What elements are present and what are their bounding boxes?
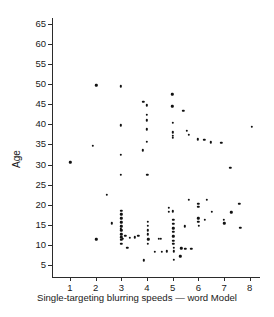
y-axis-tick [48, 64, 52, 65]
data-point [173, 247, 175, 249]
data-point [173, 259, 175, 261]
data-point [69, 161, 71, 163]
data-point [165, 250, 167, 252]
data-point [239, 226, 241, 228]
data-point [124, 235, 126, 237]
data-point [137, 234, 139, 236]
data-point [238, 203, 240, 205]
data-point [171, 131, 173, 133]
data-point [120, 217, 122, 219]
data-point [120, 174, 122, 176]
y-axis-tick [48, 144, 52, 145]
data-point [120, 124, 122, 126]
data-point [186, 130, 188, 132]
data-point [171, 122, 173, 124]
y-axis-tick-label: 10 [35, 240, 46, 250]
data-point [197, 217, 199, 219]
y-axis-tick-label: 15 [35, 220, 46, 230]
x-axis-tick [224, 277, 225, 281]
data-point [110, 222, 112, 224]
data-point [211, 211, 213, 213]
data-point [146, 119, 148, 121]
y-axis-tick-label: 35 [35, 140, 46, 150]
data-point [179, 255, 181, 257]
x-axis-tick [96, 277, 97, 281]
data-point [229, 167, 231, 169]
data-point [171, 93, 173, 95]
data-point [146, 104, 148, 106]
data-point [172, 210, 174, 212]
y-axis-tick [48, 104, 52, 105]
data-point [168, 210, 170, 212]
data-point [197, 221, 199, 223]
data-point [120, 221, 122, 223]
data-point [91, 144, 93, 146]
x-axis-title: Single-targeting blurring speeds — word … [0, 292, 274, 303]
data-point [142, 101, 144, 103]
y-axis-tick-label: 65 [35, 19, 46, 29]
data-point [146, 224, 148, 226]
data-point [146, 221, 148, 223]
data-point [172, 227, 174, 229]
data-point [184, 225, 186, 227]
data-point [154, 250, 156, 252]
data-point [120, 213, 122, 215]
data-point [105, 193, 107, 195]
data-point [172, 223, 174, 225]
y-axis-tick-label: 40 [35, 120, 46, 130]
x-axis-line [52, 277, 260, 278]
data-point [220, 142, 222, 144]
data-point [197, 225, 199, 227]
data-point [203, 138, 205, 140]
data-point [172, 235, 174, 237]
data-point [172, 243, 174, 245]
plot-area: 510152025303540455055606512345678 [52, 18, 260, 277]
data-point [251, 126, 253, 128]
y-axis-title: Age [12, 150, 22, 168]
x-axis-tick [250, 277, 251, 281]
data-point [133, 236, 135, 238]
y-axis-tick-label: 5 [41, 260, 46, 270]
data-point [173, 250, 175, 252]
data-point [129, 236, 131, 238]
data-point [172, 231, 174, 233]
data-point [120, 242, 122, 244]
data-point [182, 110, 184, 112]
x-axis-tick [173, 277, 174, 281]
y-axis-tick-label: 30 [35, 160, 46, 170]
data-point [146, 173, 148, 175]
y-axis-tick [48, 44, 52, 45]
data-point [161, 250, 163, 252]
data-point [190, 248, 192, 250]
data-point [147, 242, 149, 244]
data-point [160, 238, 162, 240]
data-point [188, 198, 190, 200]
y-axis-tick-label: 25 [35, 180, 46, 190]
y-axis-tick [48, 84, 52, 85]
data-point [197, 202, 199, 204]
y-axis-tick [48, 225, 52, 226]
data-point [188, 134, 190, 136]
data-point [120, 153, 122, 155]
data-point [197, 138, 199, 140]
data-point [120, 210, 122, 212]
data-point [171, 137, 173, 139]
data-point [172, 219, 174, 221]
data-point [205, 199, 207, 201]
data-point [209, 141, 211, 143]
data-point [146, 141, 148, 143]
data-point [172, 240, 174, 242]
y-axis-tick [48, 265, 52, 266]
data-point [223, 219, 225, 221]
x-axis-tick [198, 277, 199, 281]
data-point [146, 233, 148, 235]
data-point [168, 207, 170, 209]
data-point [120, 85, 122, 87]
data-point [146, 128, 148, 130]
data-point [142, 259, 144, 261]
x-axis-tick [70, 277, 71, 281]
data-point [126, 247, 128, 249]
y-axis-tick-label: 50 [35, 80, 46, 90]
scatter-plot-figure: 510152025303540455055606512345678 Age Si… [0, 0, 274, 317]
y-axis-tick [48, 185, 52, 186]
